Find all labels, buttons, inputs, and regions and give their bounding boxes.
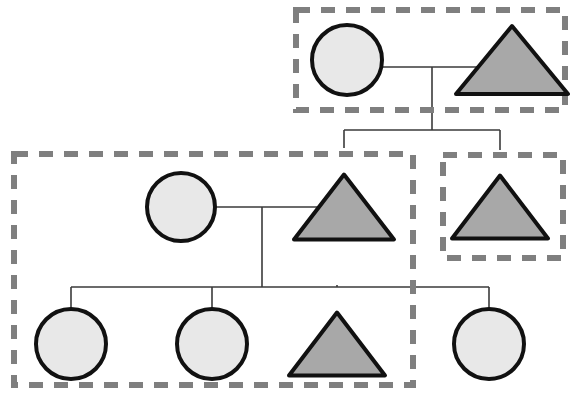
individual-triangle-II-3[interactable] bbox=[452, 176, 548, 239]
individuals-layer bbox=[36, 25, 568, 379]
pedigree-canvas bbox=[0, 0, 584, 412]
individual-circle-II-1[interactable] bbox=[147, 173, 215, 241]
individual-triangle-I-2[interactable] bbox=[456, 26, 568, 94]
individual-circle-III-1[interactable] bbox=[36, 309, 106, 379]
individual-circle-III-4[interactable] bbox=[454, 309, 524, 379]
individual-triangle-III-3[interactable] bbox=[289, 313, 385, 376]
pedigree-diagram bbox=[0, 0, 584, 412]
individual-circle-III-2[interactable] bbox=[177, 309, 247, 379]
individual-circle-I-1[interactable] bbox=[312, 25, 382, 95]
